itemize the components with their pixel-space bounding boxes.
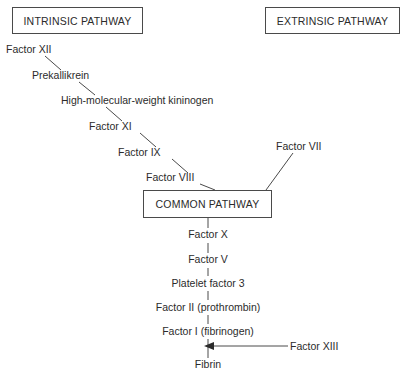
node-factor-v: Factor V <box>188 253 228 265</box>
node-prekallikrein: Prekallikrein <box>32 69 89 81</box>
extrinsic-pathway-box: EXTRINSIC PATHWAY <box>265 7 400 34</box>
coagulation-cascade-diagram: INTRINSIC PATHWAY EXTRINSIC PATHWAY COMM… <box>0 0 416 383</box>
edge-factor-xi-to-factor-ix <box>140 133 156 147</box>
edge-hmwk-to-factor-xi <box>106 107 122 121</box>
node-factor-xi: Factor XI <box>89 120 132 132</box>
common-pathway-label: COMMON PATHWAY <box>156 198 260 210</box>
intrinsic-pathway-label: INTRINSIC PATHWAY <box>23 15 131 27</box>
intrinsic-pathway-box: INTRINSIC PATHWAY <box>12 7 143 34</box>
extrinsic-pathway-label: EXTRINSIC PATHWAY <box>277 15 389 27</box>
node-factor-ii-prothrombin: Factor II (prothrombin) <box>156 301 260 313</box>
node-hmw-kininogen: High-molecular-weight kininogen <box>61 94 213 106</box>
node-platelet-factor-3: Platelet factor 3 <box>172 277 245 289</box>
common-pathway-box: COMMON PATHWAY <box>143 190 272 218</box>
node-factor-i-fibrinogen: Factor I (fibrinogen) <box>162 325 254 337</box>
edge-factor-xii-to-prekallikrein <box>45 56 61 70</box>
node-fibrin: Fibrin <box>195 358 221 370</box>
edge-factor-vii-to-common <box>266 153 293 190</box>
node-factor-x: Factor X <box>188 228 228 240</box>
arrowhead-factor-xiii <box>204 342 214 350</box>
node-factor-vii: Factor VII <box>276 140 322 152</box>
node-factor-viii: Factor VIII <box>146 171 194 183</box>
node-factor-xii: Factor XII <box>6 43 52 55</box>
node-factor-ix: Factor IX <box>118 146 161 158</box>
node-factor-xiii: Factor XIII <box>290 340 338 352</box>
